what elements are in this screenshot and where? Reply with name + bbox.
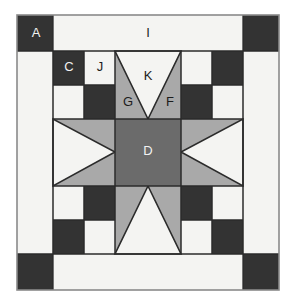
checker-patch-light bbox=[212, 85, 243, 119]
patch-label-C: C bbox=[64, 59, 73, 74]
checker-patch-dark bbox=[84, 85, 115, 119]
checker-patch-light bbox=[84, 220, 115, 254]
checker-patch-light bbox=[53, 186, 84, 220]
patch-label-F: F bbox=[166, 94, 174, 109]
patch-label-G: G bbox=[123, 94, 133, 109]
checker-patch-dark bbox=[212, 51, 243, 85]
quilt-block-canvas: A I C J K G F D bbox=[0, 0, 296, 305]
star-point-unit-bottom bbox=[115, 186, 181, 254]
star-point-unit-right bbox=[181, 119, 243, 186]
patch-label-I: I bbox=[146, 25, 150, 40]
checker-patch-light bbox=[181, 220, 212, 254]
corner-square-top-right bbox=[243, 15, 279, 51]
checker-patch-dark bbox=[84, 186, 115, 220]
star-point-unit-left bbox=[53, 119, 115, 186]
checker-patch-light bbox=[181, 51, 212, 85]
quilt-block-figure: A I C J K G F D bbox=[0, 0, 296, 305]
checker-patch-dark bbox=[181, 186, 212, 220]
checker-patch-dark bbox=[212, 220, 243, 254]
checker-patch-dark bbox=[181, 85, 212, 119]
checker-patch-light bbox=[53, 85, 84, 119]
checker-patch-light bbox=[212, 186, 243, 220]
patch-label-A: A bbox=[32, 25, 41, 40]
patch-label-K: K bbox=[144, 68, 153, 83]
patch-label-J: J bbox=[97, 59, 104, 74]
corner-square-bottom-right bbox=[243, 254, 279, 290]
corner-square-bottom-left bbox=[17, 254, 53, 290]
patch-label-D: D bbox=[143, 143, 152, 158]
checker-patch-dark bbox=[53, 220, 84, 254]
